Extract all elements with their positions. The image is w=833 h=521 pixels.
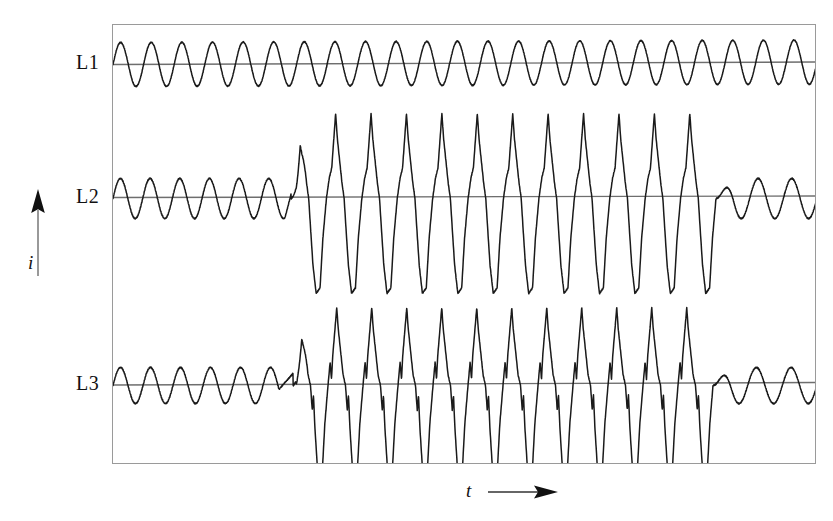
time-axis-label: t [466, 480, 471, 502]
current-axis-label: i [28, 252, 33, 274]
right-arrow-icon [486, 482, 566, 502]
trace-l2 [113, 113, 815, 293]
plot-frame [112, 24, 816, 464]
channel-label-l3: L3 [76, 373, 99, 393]
channel-label-l1: L1 [76, 52, 99, 72]
waveform-canvas [113, 25, 815, 463]
trace-l3 [113, 307, 815, 463]
baseline-l2 [113, 196, 815, 198]
time-axis-arrow [486, 482, 566, 502]
oscillogram-figure: L1 L2 L3 i t [0, 0, 833, 521]
channel-label-l2: L2 [76, 186, 99, 206]
